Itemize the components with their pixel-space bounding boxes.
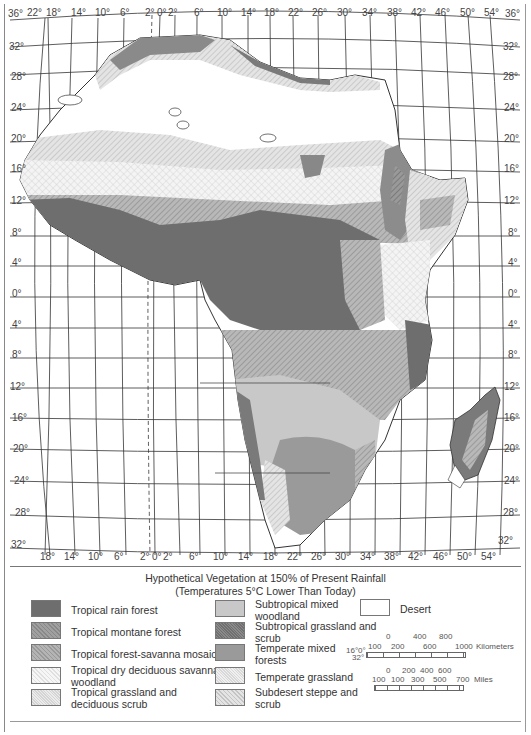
- madagascar: [448, 387, 500, 488]
- swatch-subtropical-grassland: [215, 622, 245, 639]
- lon-bot-26e: 26°: [311, 552, 326, 562]
- lon-bot-18w: 18°: [40, 552, 55, 562]
- lat-right-24s: 24°: [504, 476, 519, 486]
- lon-bot-50e: 50°: [457, 552, 472, 562]
- africa-vegetation-map: [0, 0, 531, 565]
- legend-label-desert: Desert: [400, 603, 431, 615]
- legend-label-tropical-forest-savanna-mosaic: Tropical forest-savanna mosaic: [71, 648, 217, 660]
- lon-bot-34e: 34°: [360, 552, 375, 562]
- lat-left-16s: 16°: [12, 413, 27, 423]
- lon-top-46e: 46°: [435, 8, 450, 18]
- lon-bot-22e: 22°: [287, 552, 302, 562]
- swatch-temperate-grassland: [215, 667, 245, 684]
- lon-top-22w: 22°: [27, 8, 42, 18]
- lat-left-24n: 24°: [11, 103, 26, 113]
- lat-left-12n: 12°: [11, 196, 26, 206]
- lat-left-28n: 28°: [11, 72, 26, 82]
- lat-right-16s: 16°: [504, 413, 519, 423]
- legend: Hypothetical Vegetation at 150% of Prese…: [10, 566, 521, 722]
- lon-top-42e: 42°: [411, 8, 426, 18]
- lon-bot-30e: 30°: [335, 552, 350, 562]
- lon-top-22e: 22°: [288, 8, 303, 18]
- legend-label-subtropical-mixed-woodland: Subtropical mixed woodland: [255, 598, 375, 622]
- lon-bot-10e: 10°: [213, 552, 228, 562]
- legend-label-tropical-rain-forest: Tropical rain forest: [71, 604, 158, 616]
- lon-bot-10w: 10°: [88, 552, 103, 562]
- lon-top-6w: 6°: [120, 8, 130, 18]
- swatch-tropical-grassland: [31, 689, 61, 706]
- lon-top-14w: 14°: [71, 8, 86, 18]
- lon-bot-2w: 2°: [140, 552, 150, 562]
- lon-top-38e: 38°: [387, 8, 402, 18]
- lon-bot-18e: 18°: [263, 552, 278, 562]
- swatch-subdesert-steppe: [215, 689, 245, 706]
- lon-top-54e: 54°: [484, 8, 499, 18]
- swatch-desert: [360, 599, 390, 616]
- lat-left-24s: 24°: [14, 476, 29, 486]
- lon-bot-38e: 38°: [384, 552, 399, 562]
- lat-left-4s: 4°: [12, 320, 22, 330]
- miles-scale-bar: [374, 685, 464, 691]
- lat-left-32s: 32°: [11, 540, 26, 550]
- lon-bot-14w: 14°: [64, 552, 79, 562]
- lon-bot-14e: 14°: [238, 552, 253, 562]
- km-scale-bar: [366, 652, 466, 658]
- lat-left-32n: 32°: [9, 42, 24, 52]
- lon-top-18w: 18°: [46, 8, 61, 18]
- lon-bot-6e: 6°: [189, 552, 199, 562]
- map-title: Hypothetical Vegetation at 150% of Prese…: [10, 572, 521, 584]
- lon-top-10w: 10°: [95, 8, 110, 18]
- lat-right-12n: 12°: [504, 196, 519, 206]
- lat-left-20s: 20°: [13, 444, 28, 454]
- lon-top-6e: 6°: [194, 8, 204, 18]
- lat-right-0: 0°: [508, 289, 518, 299]
- lat-left-4n: 4°: [12, 258, 22, 268]
- lat-right-4n: 4°: [508, 258, 518, 268]
- lon-bot-42e: 42°: [408, 552, 423, 562]
- lat-right-28s: 28°: [503, 508, 518, 518]
- lon-top-0: 0°: [157, 8, 167, 18]
- legend-label-subtropical-grassland: Subtropical grassland and scrub: [255, 620, 385, 644]
- lat-right-4s: 4°: [508, 320, 518, 330]
- swatch-tropical-dry-deciduous: [31, 667, 61, 684]
- lat-right-16n: 16°: [504, 164, 519, 174]
- lat-right-20s: 20°: [504, 444, 519, 454]
- lon-top-30e: 30°: [337, 8, 352, 18]
- lon-bot-2e: 2°: [163, 552, 173, 562]
- lat-right-8s: 8°: [508, 350, 518, 360]
- swatch-temperate-mixed-forests: [215, 644, 245, 661]
- swatch-tropical-montane-forest: [31, 622, 61, 639]
- legend-label-tropical-dry-deciduous: Tropical dry deciduous savanna woodland: [71, 664, 221, 688]
- legend-label-temperate-grassland: Temperate grassland: [255, 671, 353, 683]
- lat-right-32n: 32°: [503, 42, 518, 52]
- legend-label-tropical-grassland: Tropical grassland and deciduous scrub: [71, 686, 221, 710]
- lat-right-12s: 12°: [504, 382, 519, 392]
- lon-top-26e: 26°: [312, 8, 327, 18]
- lon-top-2e: 2°: [168, 8, 178, 18]
- lat-right-32s: 32°: [498, 536, 513, 546]
- lon-top-34e: 34°: [362, 8, 377, 18]
- lat-right-24n: 24°: [504, 103, 519, 113]
- lon-top-14e: 14°: [241, 8, 256, 18]
- map-subtitle: (Temperatures 5°C Lower Than Today): [10, 585, 521, 597]
- lat-left-8s: 8°: [12, 350, 22, 360]
- lon-bot-0: 0°: [152, 552, 162, 562]
- lat-left-8n: 8°: [12, 228, 22, 238]
- lon-top-2w: 2°: [145, 8, 155, 18]
- lon-top-10e: 10°: [217, 8, 232, 18]
- legend-label-subdesert-steppe: Subdesert steppe and scrub: [255, 686, 365, 710]
- lat-right-28n: 28°: [503, 72, 518, 82]
- lon-top-18e: 18°: [264, 8, 279, 18]
- lat-left-0: 0°: [12, 289, 22, 299]
- swatch-tropical-forest-savanna-mosaic: [31, 644, 61, 661]
- legend-label-tropical-montane-forest: Tropical montane forest: [71, 626, 181, 638]
- lat-left-16n: 16°: [11, 164, 26, 174]
- swatch-subtropical-mixed-woodland: [215, 600, 245, 617]
- lon-bot-54e: 54°: [481, 552, 496, 562]
- lon-bot-6w: 6°: [114, 552, 124, 562]
- lat-right-8n: 8°: [508, 228, 518, 238]
- lon-top-50e: 50°: [460, 8, 475, 18]
- lat-left-12s: 12°: [10, 382, 25, 392]
- swatch-tropical-rain-forest: [31, 600, 61, 617]
- lat-left-20n: 20°: [11, 134, 26, 144]
